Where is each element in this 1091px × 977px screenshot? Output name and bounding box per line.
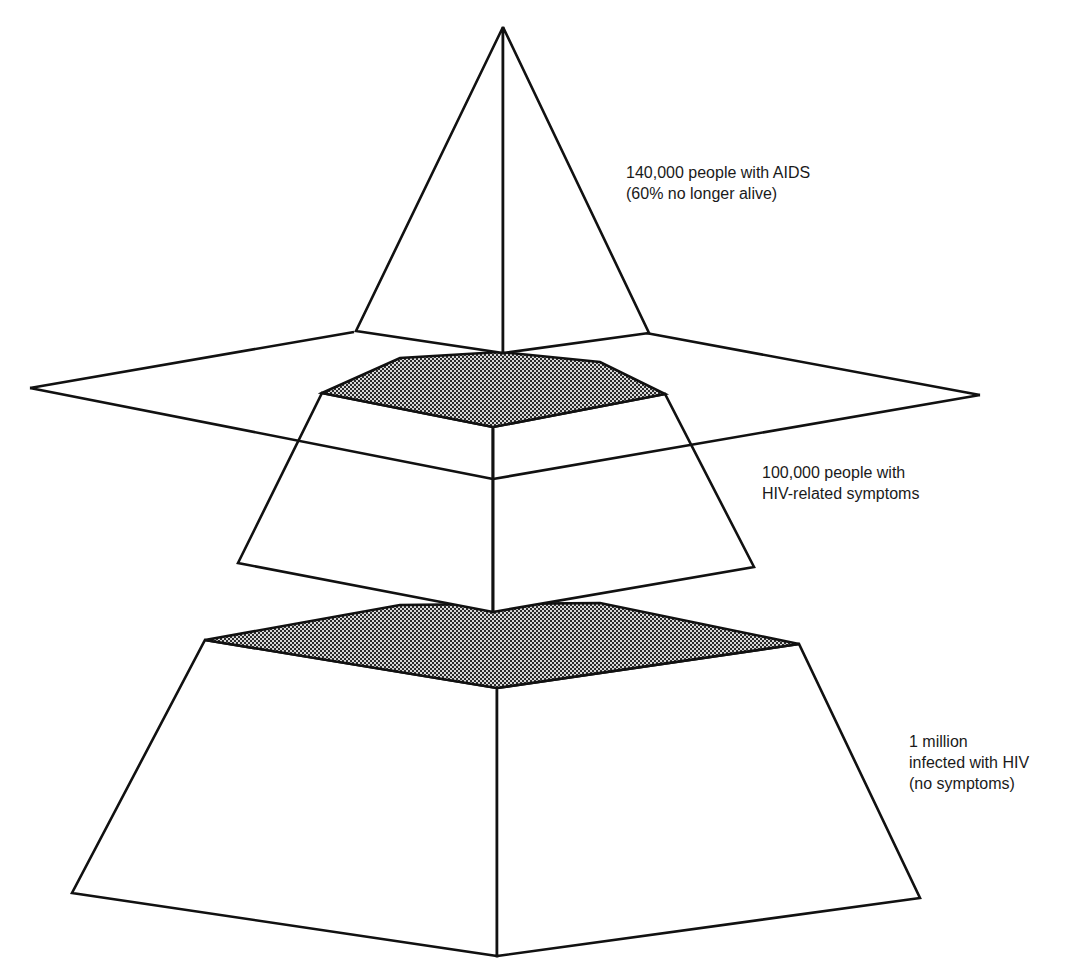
apex-left-face bbox=[356, 27, 503, 353]
label-hiv-line-2: infected with HIV bbox=[909, 752, 1029, 773]
plane-back-left-edge bbox=[30, 332, 354, 388]
apex-tier-aids bbox=[356, 27, 649, 353]
plane-back-right-edge bbox=[646, 333, 980, 395]
label-aids-line-2: (60% no longer alive) bbox=[626, 183, 810, 204]
label-aids-tier: 140,000 people with AIDS (60% no longer … bbox=[626, 162, 810, 204]
label-hiv-no-symptoms-tier: 1 million infected with HIV (no symptoms… bbox=[909, 731, 1029, 794]
label-hiv-symptoms-tier: 100,000 people with HIV-related symptoms bbox=[762, 462, 919, 504]
base-tier-left-face bbox=[72, 640, 497, 956]
label-symptoms-line-2: HIV-related symptoms bbox=[762, 483, 919, 504]
middle-tier-left-face bbox=[238, 393, 493, 612]
base-tier-right-face bbox=[497, 644, 920, 956]
label-hiv-line-1: 1 million bbox=[909, 731, 1029, 752]
label-symptoms-line-1: 100,000 people with bbox=[762, 462, 919, 483]
middle-tier-right-face bbox=[493, 394, 754, 612]
base-tier-hiv-no-symptoms bbox=[72, 603, 920, 956]
iceberg-pyramid-diagram bbox=[0, 0, 1091, 977]
label-hiv-line-3: (no symptoms) bbox=[909, 773, 1029, 794]
label-aids-line-1: 140,000 people with AIDS bbox=[626, 162, 810, 183]
